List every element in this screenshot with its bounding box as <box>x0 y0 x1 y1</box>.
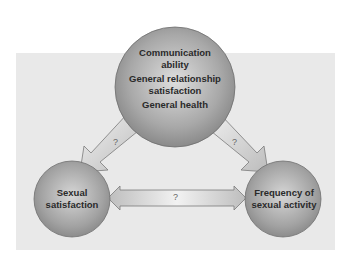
left-node-label: Sexual satisfaction <box>32 187 112 211</box>
factor-communication: Communication ability <box>122 47 228 70</box>
arrow-left-label: ? <box>113 137 118 147</box>
factor-line: General health <box>142 99 208 110</box>
label-line: Frequency of <box>254 187 314 198</box>
factor-relationship-satisfaction: General relationship satisfaction <box>122 73 228 96</box>
factor-line: satisfaction <box>149 85 202 96</box>
factor-line: Communication <box>139 47 211 58</box>
arrow-right-label: ? <box>232 137 237 147</box>
factor-line: ability <box>161 59 188 70</box>
label-line: sexual activity <box>252 199 317 210</box>
diagram-canvas <box>0 0 349 260</box>
arrow-horizontal-label: ? <box>173 192 178 202</box>
label-line: Sexual <box>57 187 88 198</box>
factor-line: General relationship <box>129 73 221 84</box>
right-node-label: Frequency of sexual activity <box>243 187 325 211</box>
factor-general-health: General health <box>122 99 228 111</box>
top-node-label: Communication ability General relationsh… <box>122 47 228 114</box>
label-line: satisfaction <box>46 199 99 210</box>
